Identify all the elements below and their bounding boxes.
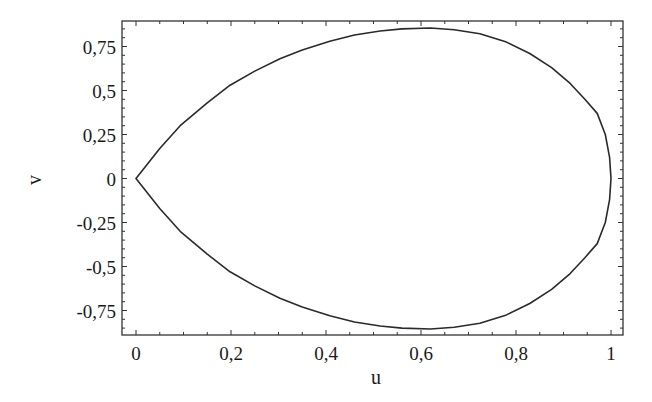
x-tick-label: 0,2 xyxy=(219,343,243,364)
axis-ticks xyxy=(122,21,623,335)
y-tick-label: 0,5 xyxy=(92,81,116,102)
y-tick-label: -0,25 xyxy=(76,213,116,234)
y-tick-label: -0,5 xyxy=(86,257,116,278)
x-axis-label: u xyxy=(371,366,381,388)
chart-canvas: 00,20,40,60,81 0,750,50,250-0,25-0,5-0,7… xyxy=(0,0,652,402)
x-tick-labels: 00,20,40,60,81 xyxy=(131,343,616,364)
x-tick-label: 0,8 xyxy=(504,343,528,364)
x-tick-label: 0 xyxy=(131,343,141,364)
teardrop-curve xyxy=(136,28,611,329)
y-tick-label: 0,75 xyxy=(83,37,116,58)
plot-frame xyxy=(122,21,623,335)
y-tick-label: -0,75 xyxy=(76,301,116,322)
x-tick-label: 0,4 xyxy=(314,343,338,364)
y-tick-label: 0 xyxy=(107,169,117,190)
x-tick-label: 1 xyxy=(606,343,616,364)
y-tick-labels: 0,750,50,250-0,25-0,5-0,75 xyxy=(76,37,116,322)
y-axis-label: v xyxy=(23,175,45,185)
x-tick-label: 0,6 xyxy=(409,343,433,364)
y-tick-label: 0,25 xyxy=(83,125,116,146)
